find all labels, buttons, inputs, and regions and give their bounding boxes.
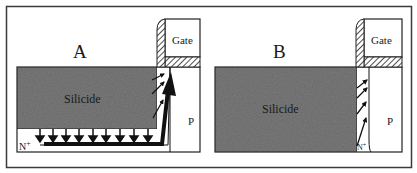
panel-a-substrate-label: P [188, 115, 194, 127]
panel-a-gate-label: Gate [172, 34, 193, 46]
silicide-junction-diagram: A Gate Silicide P N+ B Gate Silicide P [0, 0, 417, 173]
panel-b-spacer [356, 19, 364, 67]
panel-b-gate-oxide [364, 57, 402, 67]
panel-a-junction-label-sup: + [26, 139, 31, 148]
panel-b-substrate-label: P [387, 115, 393, 127]
panel-a-gate-oxide [165, 57, 200, 67]
panel-a-label: A [73, 41, 87, 62]
panel-b-gate-label: Gate [371, 34, 392, 46]
panel-b-label: B [273, 41, 286, 62]
panel-a-spacer [157, 19, 165, 67]
panel-b-silicide-label: Silicide [262, 102, 299, 116]
panel-a-junction-label-main: N [19, 141, 26, 152]
panel-a-silicide-label: Silicide [64, 92, 101, 106]
